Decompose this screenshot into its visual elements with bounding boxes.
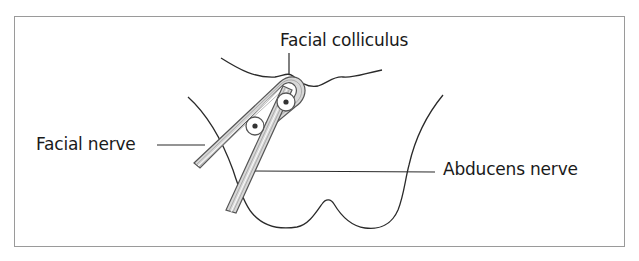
label-facial-colliculus: Facial colliculus (280, 32, 408, 49)
facial-nucleus (246, 117, 264, 135)
abducens-nucleus (277, 93, 295, 111)
label-facial-nerve: Facial nerve (36, 136, 136, 153)
label-abducens-nerve: Abducens nerve (443, 161, 578, 178)
